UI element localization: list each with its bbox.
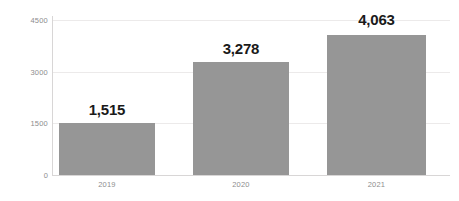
x-tick-label-2021: 2021 [327, 180, 426, 189]
y-axis-tick-labels: 4500 3000 1500 0 [0, 0, 48, 201]
y-tick-label-0: 0 [0, 171, 48, 180]
bar-2020[interactable] [193, 62, 289, 175]
x-tick-label-2019: 2019 [59, 180, 155, 189]
y-tick-label-1500: 1500 [0, 119, 48, 128]
bar-value-2021: 4,063 [327, 11, 426, 28]
bar-chart: 4500 3000 1500 0 1,515 3,278 4,063 2019 … [0, 0, 459, 201]
bar-value-2019: 1,515 [59, 101, 155, 118]
bar-2019[interactable] [59, 123, 155, 175]
bar-value-2020: 3,278 [193, 40, 289, 57]
y-tick-label-3000: 3000 [0, 68, 48, 77]
x-tick-label-2020: 2020 [193, 180, 289, 189]
x-axis-line [52, 175, 450, 176]
y-tick-label-4500: 4500 [0, 16, 48, 25]
bar-2021[interactable] [327, 35, 426, 175]
